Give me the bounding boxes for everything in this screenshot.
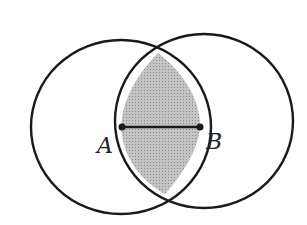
diagram: A B (0, 0, 307, 225)
point-b (197, 124, 204, 131)
label-a: A (97, 133, 113, 158)
venn-diagram (0, 0, 307, 225)
label-b: B (206, 129, 222, 154)
point-a (119, 124, 126, 131)
